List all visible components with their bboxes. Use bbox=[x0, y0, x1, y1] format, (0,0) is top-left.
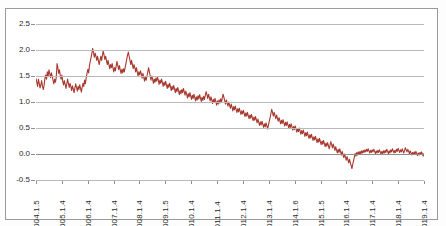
y-axis-tick bbox=[31, 128, 35, 129]
x-axis-tick bbox=[36, 181, 37, 184]
y-axis-tick bbox=[31, 24, 35, 25]
x-axis-tick bbox=[114, 181, 115, 184]
y-axis-tick-label: 2.0 bbox=[6, 46, 30, 54]
y-axis-tick bbox=[31, 180, 35, 181]
x-axis-tick bbox=[398, 181, 399, 184]
gridline bbox=[36, 76, 424, 77]
x-axis-tick-label: 2006.1.4 bbox=[84, 200, 93, 226]
x-axis-tick bbox=[165, 181, 166, 184]
series-line bbox=[36, 48, 424, 168]
x-axis-tick-label: 2011.1.4 bbox=[213, 201, 222, 226]
y-axis-tick bbox=[31, 76, 35, 77]
x-axis-tick-label: 2017.1.4 bbox=[368, 200, 377, 226]
y-axis-tick-label: -0.5 bbox=[6, 176, 30, 184]
y-axis-tick-label: 1.0 bbox=[6, 98, 30, 106]
x-axis-tick bbox=[139, 181, 140, 184]
y-axis-tick bbox=[31, 154, 35, 155]
chart-screenshot: 2.52.01.51.00.50.0-0.5 2004.1.52005.1.42… bbox=[0, 0, 446, 226]
x-axis-tick-label: 2018.1.4 bbox=[394, 200, 403, 226]
y-axis-tick bbox=[31, 102, 35, 103]
x-axis-tick bbox=[321, 181, 322, 184]
x-axis-tick bbox=[424, 181, 425, 184]
x-axis-tick-label: 2005.1.4 bbox=[58, 200, 67, 226]
x-axis-tick bbox=[88, 181, 89, 184]
y-axis-tick bbox=[31, 50, 35, 51]
x-axis-tick-label: 2009.1.5 bbox=[161, 200, 170, 226]
gridline bbox=[36, 128, 424, 129]
x-axis-tick-label: 2012.1.4 bbox=[239, 200, 248, 226]
x-axis-tick-label: 2013.1.4 bbox=[265, 200, 274, 226]
y-axis-tick-label: 0.0 bbox=[6, 150, 30, 158]
x-axis-tick-label: 2019.1.4 bbox=[420, 200, 429, 226]
x-axis-tick-label: 2015.1.5 bbox=[317, 200, 326, 226]
x-axis-tick-label: 2010.1.4 bbox=[187, 200, 196, 226]
y-axis-tick-label: 1.5 bbox=[6, 72, 30, 80]
y-axis-tick-label: 2.5 bbox=[6, 20, 30, 28]
x-axis-labels: 2004.1.52005.1.42006.1.42007.1.42008.1.4… bbox=[36, 181, 424, 226]
cut-off-caption bbox=[0, 0, 446, 7]
x-axis-tick bbox=[217, 181, 218, 184]
x-axis-tick-label: 2016.1.4 bbox=[342, 200, 351, 226]
x-axis-tick bbox=[295, 181, 296, 184]
x-axis-tick-label: 2008.1.4 bbox=[135, 200, 144, 226]
x-axis-tick bbox=[269, 181, 270, 184]
x-axis-tick bbox=[191, 181, 192, 184]
x-axis-tick-label: 2007.1.4 bbox=[110, 200, 119, 226]
x-axis-tick bbox=[346, 181, 347, 184]
chart-frame: 2.52.01.51.00.50.0-0.5 2004.1.52005.1.42… bbox=[5, 8, 438, 220]
gridline bbox=[36, 24, 424, 25]
x-axis-tick bbox=[372, 181, 373, 184]
gridline bbox=[36, 102, 424, 103]
plot-area bbox=[36, 24, 424, 180]
x-axis-tick-label: 2014.1.6 bbox=[291, 200, 300, 226]
zero-axis-line bbox=[36, 154, 424, 155]
x-axis-tick bbox=[62, 181, 63, 184]
y-axis-tick-label: 0.5 bbox=[6, 124, 30, 132]
x-axis-tick bbox=[243, 181, 244, 184]
x-axis-tick-label: 2004.1.5 bbox=[32, 200, 41, 226]
gridline bbox=[36, 50, 424, 51]
